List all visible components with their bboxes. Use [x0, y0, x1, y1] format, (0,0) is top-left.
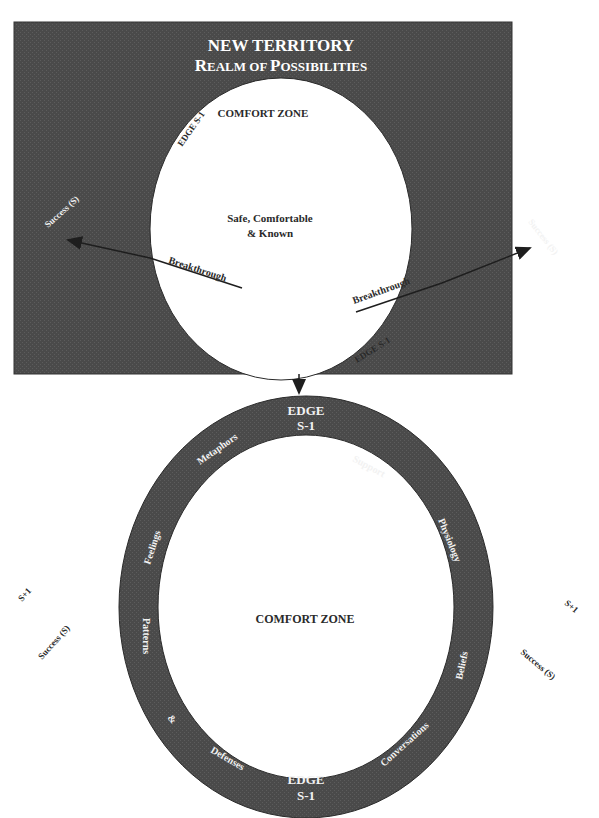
edge-ring: [119, 396, 493, 818]
edge-top-label: EDGE: [288, 403, 325, 418]
edge-bottom-label: EDGE: [288, 772, 325, 787]
comfort-zone-label-bottom: COMFORT ZONE: [255, 612, 354, 626]
ring-label-patterns: Patterns: [141, 618, 152, 654]
edge-ring-panel: COMFORT ZONE EDGE S-1 EDGE S-1 Metaphors…: [16, 396, 581, 818]
comfort-zone-label-top: COMFORT ZONE: [218, 107, 309, 119]
known-label: & Known: [247, 227, 293, 239]
success-label-right: Success (S): [526, 217, 560, 256]
territory-title: NEW TERRITORY: [208, 36, 354, 55]
edge-bottom-s1-label: S-1: [297, 788, 315, 803]
new-territory-panel: NEW TERRITORY REALM OF POSSIBILITIES COM…: [14, 22, 560, 380]
territory-subtitle: REALM OF POSSIBILITIES: [195, 56, 367, 75]
success-label-bottom-right: Success (S): [519, 647, 558, 682]
edge-top-s1-label: S-1: [297, 418, 315, 433]
comfort-zone-diagram: NEW TERRITORY REALM OF POSSIBILITIES COM…: [0, 0, 599, 818]
success-label-bottom-left: Success (S): [36, 623, 72, 661]
safe-comfortable-label: Safe, Comfortable: [227, 212, 313, 224]
s-plus-label-right: S+1: [563, 598, 581, 615]
s-plus-label-left: S+1: [16, 585, 34, 603]
